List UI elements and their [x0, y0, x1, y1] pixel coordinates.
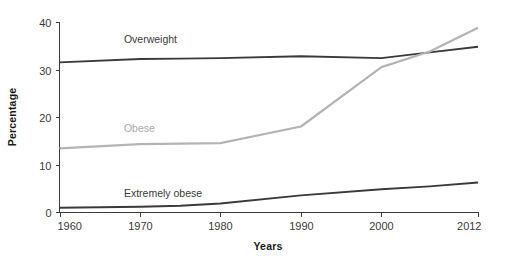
y-axis-tick-labels: 010203040 — [39, 17, 51, 219]
x-tick-label: 1980 — [208, 220, 232, 232]
x-axis-title: Years — [253, 240, 282, 252]
y-tick-label: 0 — [45, 207, 51, 219]
y-tick-label: 30 — [39, 65, 51, 77]
y-axis-ticks — [56, 23, 60, 213]
y-tick-label: 40 — [39, 17, 51, 29]
line-chart: 010203040 196019701980199020002012 Overw… — [0, 0, 509, 264]
series-line-overweight — [60, 47, 479, 63]
series-label-extremely-obese: Extremely obese — [124, 187, 202, 199]
x-tick-label: 1960 — [58, 220, 82, 232]
series-line-obese — [60, 28, 479, 149]
x-tick-label: 2000 — [369, 220, 393, 232]
y-axis-title: Percentage — [6, 88, 18, 147]
y-tick-label: 20 — [39, 112, 51, 124]
chart-container: 010203040 196019701980199020002012 Overw… — [0, 0, 509, 264]
series-line-extremely-obese — [60, 183, 479, 208]
series-label-obese: Obese — [124, 122, 155, 134]
y-tick-label: 10 — [39, 160, 51, 172]
x-tick-label: 1990 — [289, 220, 313, 232]
x-tick-label: 1970 — [128, 220, 152, 232]
data-series-group — [60, 28, 479, 208]
series-label-overweight: Overweight — [124, 33, 177, 45]
x-tick-label: 2012 — [457, 220, 481, 232]
x-axis-tick-labels: 196019701980199020002012 — [58, 220, 482, 232]
